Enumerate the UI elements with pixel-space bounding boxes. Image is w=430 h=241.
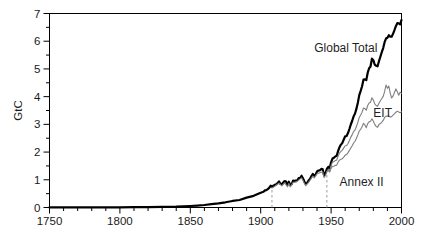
x-axis-tick-label: 1850: [178, 215, 204, 227]
series-label-eit: EIT: [373, 106, 392, 120]
x-axis-tick-label: 2000: [389, 215, 415, 227]
x-axis-tick-label: 1750: [37, 215, 63, 227]
y-axis-tick-label: 4: [34, 91, 41, 103]
y-axis-tick-label: 1: [34, 174, 40, 186]
y-axis-tick-label: 2: [34, 146, 40, 158]
y-axis-tick-label: 7: [34, 8, 40, 20]
series-label-annex-ii: Annex II: [340, 175, 384, 189]
y-axis-tick-label: 5: [34, 63, 40, 75]
x-axis-tick-label: 1900: [248, 215, 274, 227]
y-axis-tick-label: 3: [34, 118, 40, 130]
y-axis-tick-label: 0: [34, 202, 40, 214]
x-axis-tick-label: 1950: [318, 215, 344, 227]
y-axis-tick-label: 6: [34, 35, 40, 47]
emissions-figure: 17501800185019001950200001234567GtCGloba…: [0, 0, 430, 241]
series-label-global-total: Global Total: [314, 41, 377, 55]
emissions-line-chart: 17501800185019001950200001234567GtCGloba…: [0, 0, 430, 241]
x-axis-tick-label: 1800: [107, 215, 133, 227]
y-axis-title: GtC: [12, 100, 24, 120]
series-line-eit: [272, 85, 402, 188]
series-line-annex-ii: [327, 111, 402, 172]
